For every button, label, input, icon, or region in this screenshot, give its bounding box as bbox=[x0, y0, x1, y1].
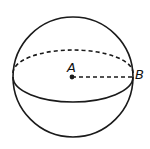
equator-front bbox=[13, 77, 133, 102]
sphere-diagram: A B bbox=[0, 0, 150, 149]
label-b: B bbox=[135, 67, 144, 82]
center-point-a bbox=[70, 75, 75, 80]
label-a: A bbox=[66, 60, 76, 75]
